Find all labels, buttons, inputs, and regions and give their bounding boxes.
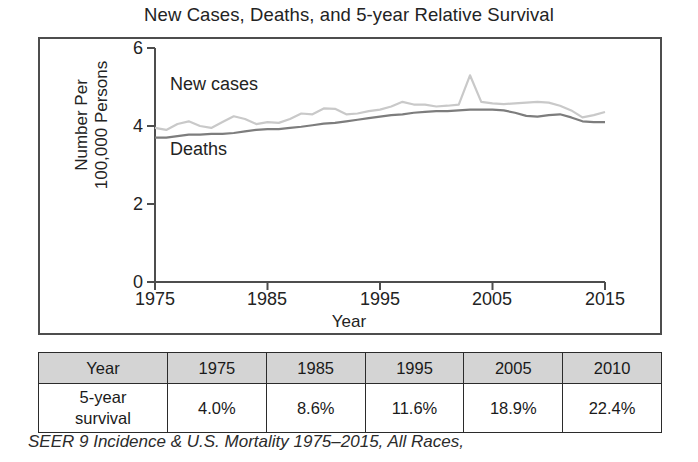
x-tick-label-2005: 2005 bbox=[462, 289, 522, 310]
table-header-cell: 1985 bbox=[266, 353, 365, 384]
table-row-label-line1: 5-year bbox=[80, 388, 127, 406]
series-label-deaths: Deaths bbox=[170, 139, 227, 160]
y-axis-title: Number Per 100,000 Persons bbox=[72, 25, 112, 225]
table-cell-survival: 11.6% bbox=[365, 384, 464, 433]
table-header-cell: 2005 bbox=[464, 353, 563, 384]
table-cell-survival: 18.9% bbox=[464, 384, 563, 433]
figure-caption: SEER 9 Incidence & U.S. Mortality 1975–2… bbox=[28, 432, 688, 452]
y-tick-label-6: 6 bbox=[117, 38, 143, 59]
series-label-new-cases: New cases bbox=[170, 74, 258, 95]
table-row-label-line2: survival bbox=[75, 409, 131, 427]
y-axis-ticks bbox=[147, 48, 155, 282]
x-tick-label-1995: 1995 bbox=[350, 289, 410, 310]
series-line-deaths bbox=[155, 110, 605, 138]
x-axis-title: Year bbox=[0, 312, 698, 332]
table-row-label: 5-year survival bbox=[39, 384, 168, 433]
page-title: New Cases, Deaths, and 5-year Relative S… bbox=[0, 4, 698, 26]
y-tick-label-2: 2 bbox=[117, 194, 143, 215]
table-header-cell: 1975 bbox=[168, 353, 267, 384]
y-tick-label-4: 4 bbox=[117, 116, 143, 137]
x-tick-label-1975: 1975 bbox=[125, 289, 185, 310]
table-row: 5-year survival 4.0% 8.6% 11.6% 18.9% 22… bbox=[39, 384, 662, 433]
survival-data-table: Year 1975 1985 1995 2005 2010 5-year sur… bbox=[38, 352, 662, 433]
table-header-cell: 2010 bbox=[563, 353, 662, 384]
table-cell-survival: 22.4% bbox=[563, 384, 662, 433]
y-axis-title-line1: Number Per bbox=[72, 79, 91, 171]
table-cell-survival: 8.6% bbox=[266, 384, 365, 433]
table-cell-survival: 4.0% bbox=[168, 384, 267, 433]
x-tick-label-1985: 1985 bbox=[237, 289, 297, 310]
table-header-row: Year 1975 1985 1995 2005 2010 bbox=[39, 353, 662, 384]
x-tick-label-2015: 2015 bbox=[575, 289, 635, 310]
table-header-cell: Year bbox=[39, 353, 168, 384]
table-header-cell: 1995 bbox=[365, 353, 464, 384]
y-axis-title-line2: 100,000 Persons bbox=[92, 61, 111, 190]
